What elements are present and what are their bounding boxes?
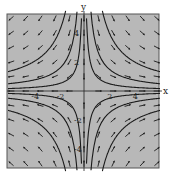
- y-axis-label: y: [80, 2, 87, 12]
- y-tick-label: 2: [74, 58, 79, 67]
- phase-portrait-chart: x y -4-224-4-224: [0, 0, 179, 179]
- x-axis-label: x: [163, 86, 168, 96]
- x-tick-label: -4: [31, 92, 39, 101]
- y-tick-label: -2: [74, 116, 82, 125]
- x-tick-label: 2: [107, 92, 112, 101]
- y-tick-label: -4: [74, 145, 82, 154]
- x-tick-label: 4: [133, 92, 138, 101]
- x-tick-label: -2: [57, 92, 65, 101]
- y-tick-label: 4: [74, 29, 79, 38]
